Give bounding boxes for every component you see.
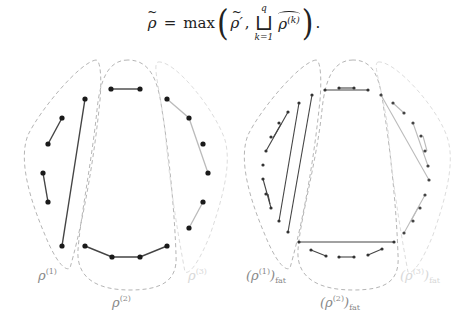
right-diagram [244, 60, 450, 290]
right-rho3-fat-points [379, 93, 430, 234]
label-rho3: ρ(3) [187, 267, 207, 283]
outline-rho2 [78, 60, 176, 290]
outline-rho1 [24, 60, 100, 269]
left-rho2-points [82, 86, 169, 259]
outline-rho1-fat [244, 60, 320, 269]
outline-rho3 [156, 62, 227, 272]
clustering-figure: ρ(1) ρ(2) ρ(3) (ρ(1))fat (ρ(2))fat (ρ(3)… [0, 0, 468, 325]
left-diagram [24, 60, 227, 290]
left-labels: ρ(1) ρ(2) ρ(3) [37, 267, 207, 310]
label-rho1-fat: (ρ(1))fat [246, 267, 287, 285]
outline-rho3-fat [376, 62, 450, 272]
label-rho1: ρ(1) [37, 267, 57, 283]
label-rho2: ρ(2) [111, 294, 131, 310]
right-rho1-fat-points [261, 93, 313, 233]
label-rho3-fat: (ρ(3))fat [400, 267, 441, 285]
left-rho3-points [164, 96, 210, 230]
label-rho2-fat: (ρ(2))fat [320, 294, 361, 312]
